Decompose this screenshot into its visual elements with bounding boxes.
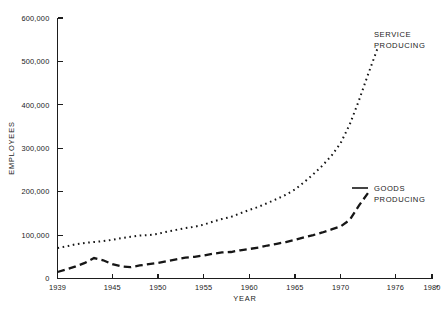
y-axis-ticks: 0100,000200,000300,000400,000500,000600,… xyxy=(21,14,62,284)
y-tick-label: 600,000 xyxy=(21,14,49,23)
x-axis-ticks: 193919451950195519601965197019761980 xyxy=(49,274,441,292)
series-annotation-service-producing: SERVICE PRODUCING xyxy=(374,30,425,50)
y-tick-label: 500,000 xyxy=(21,57,49,66)
series-label-service-line1: SERVICE xyxy=(374,30,411,39)
x-tick-label: 1960 xyxy=(241,283,258,292)
x-tick-label: 1976 xyxy=(387,283,404,292)
x-tick-label: 1945 xyxy=(104,283,121,292)
x-axis-title: YEAR xyxy=(233,294,257,303)
employment-line-chart: 0100,000200,000300,000400,000500,000600,… xyxy=(0,0,445,309)
y-axis-title: EMPLOYEES xyxy=(7,121,16,175)
series-label-service-line2: PRODUCING xyxy=(374,41,425,50)
y-tick-label: 300,000 xyxy=(21,144,49,153)
series-label-goods-line1: GOODS xyxy=(374,184,405,193)
series-line-service-producing xyxy=(58,49,378,248)
series-annotation-goods-producing: GOODS PRODUCING xyxy=(352,184,425,204)
y-tick-label: 400,000 xyxy=(21,101,49,110)
x-tick-label: 1939 xyxy=(49,283,66,292)
x-tick-label: 1970 xyxy=(332,283,349,292)
series-line-goods-producing xyxy=(58,193,369,272)
series-label-goods-line2: PRODUCING xyxy=(374,195,425,204)
x-tick-label: 1950 xyxy=(149,283,166,292)
chart-canvas: 0100,000200,000300,000400,000500,000600,… xyxy=(0,0,445,309)
y-tick-label: 100,000 xyxy=(21,231,49,240)
y-tick-label: 200,000 xyxy=(21,187,49,196)
x-tick-label: 1955 xyxy=(195,283,212,292)
footnote-asterisk: * xyxy=(436,284,439,291)
x-tick-label: 1965 xyxy=(286,283,303,292)
